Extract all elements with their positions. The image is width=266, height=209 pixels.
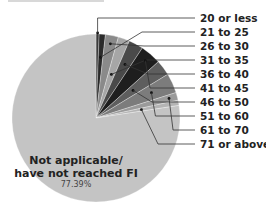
legend-label: 61 to 70 xyxy=(200,124,249,136)
legend: 20 or less 21 to 25 26 to 30 31 to 35 36… xyxy=(200,12,266,150)
legend-label: 41 to 45 xyxy=(200,82,249,94)
center-label-line1: Not applicable/ xyxy=(29,154,124,167)
legend-label: 26 to 30 xyxy=(200,40,249,52)
legend-label: 31 to 35 xyxy=(200,54,249,66)
legend-label: 36 to 40 xyxy=(200,68,249,80)
center-percentage: 77.39% xyxy=(61,180,92,189)
pie-chart: 20 or less 21 to 25 26 to 30 31 to 35 36… xyxy=(0,0,266,209)
leader-line xyxy=(98,18,195,33)
legend-label: 21 to 25 xyxy=(200,26,249,38)
legend-label: 46 to 50 xyxy=(200,96,249,108)
legend-label: 71 or above xyxy=(200,138,266,150)
legend-label: 51 to 60 xyxy=(200,110,249,122)
center-label-line2: have not reached FI xyxy=(14,167,138,180)
legend-label: 20 or less xyxy=(200,12,258,24)
